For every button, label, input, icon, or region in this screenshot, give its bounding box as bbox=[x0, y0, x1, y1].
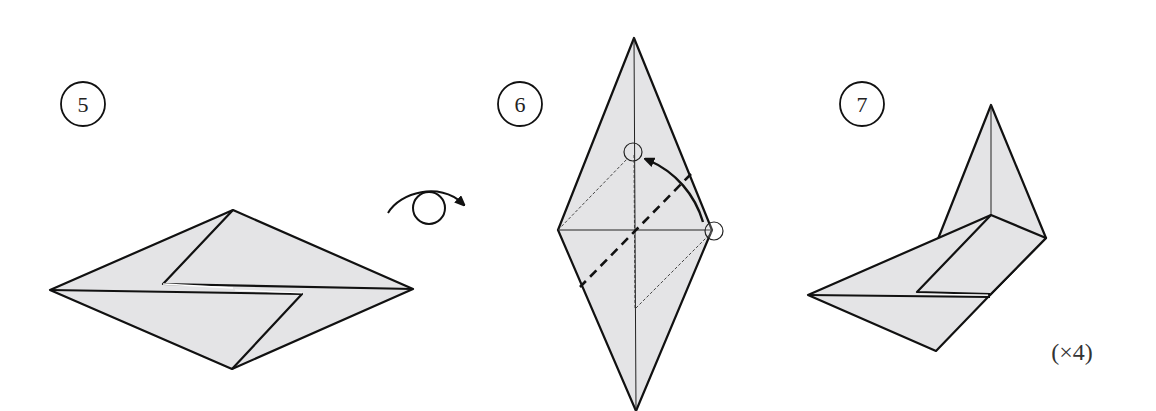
step-6-label: 6 bbox=[498, 82, 542, 126]
turn-over-icon bbox=[388, 191, 462, 224]
step-5-model bbox=[50, 210, 413, 369]
step-7: 7 (×4) bbox=[808, 82, 1093, 365]
step-number: 6 bbox=[515, 92, 526, 117]
start-point-icon bbox=[705, 222, 723, 240]
step-7-label: 7 bbox=[840, 82, 884, 126]
step-number: 5 bbox=[78, 92, 89, 117]
origami-diagram: 5 6 bbox=[0, 0, 1156, 411]
step-number: 7 bbox=[857, 92, 868, 117]
step-5: 5 bbox=[50, 82, 462, 369]
step-7-model bbox=[808, 105, 1046, 351]
step-6: 6 bbox=[498, 38, 723, 411]
step-6-model bbox=[558, 38, 723, 411]
step-5-label: 5 bbox=[61, 82, 105, 126]
repeat-count-label: (×4) bbox=[1051, 339, 1093, 365]
